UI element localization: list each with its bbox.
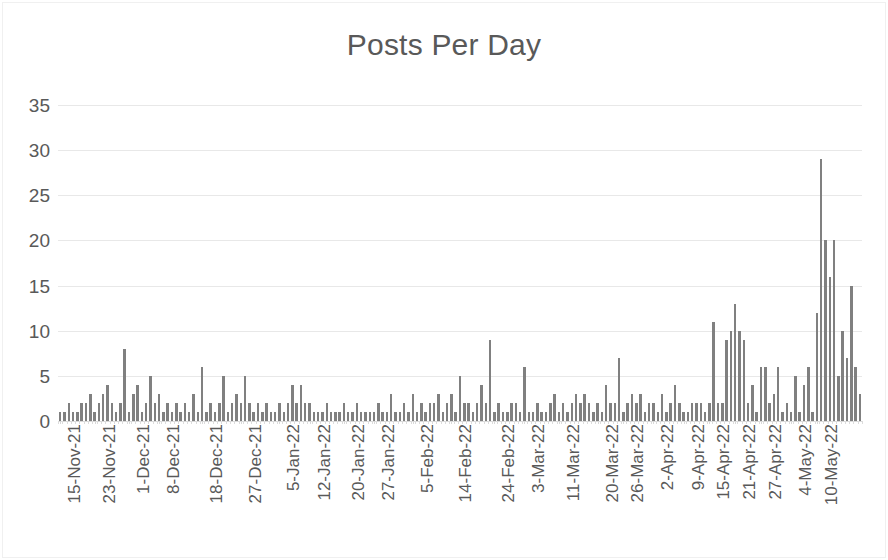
x-axis-minor-tick-mark: [183, 421, 184, 424]
x-axis-tick-mark: [202, 421, 203, 424]
x-axis-minor-tick-mark: [574, 421, 575, 424]
bar: [334, 412, 336, 421]
bar: [240, 403, 242, 421]
bar: [369, 412, 371, 421]
x-axis-minor-tick-mark: [191, 421, 192, 424]
x-axis-minor-tick-mark: [651, 421, 652, 424]
bar: [648, 403, 650, 421]
x-axis-tick-label: 27-Apr-22: [767, 424, 784, 500]
x-axis-minor-tick-mark: [226, 421, 227, 424]
x-axis-tick-mark: [95, 421, 96, 424]
bar: [192, 394, 194, 421]
bar: [222, 376, 224, 421]
x-axis-minor-tick-mark: [204, 421, 205, 424]
bar: [510, 403, 512, 421]
x-axis-minor-tick-mark: [277, 421, 278, 424]
bar: [777, 367, 779, 421]
bar: [596, 403, 598, 421]
bar: [674, 385, 676, 421]
y-axis-tick-label: 20: [6, 231, 50, 250]
x-axis-minor-tick-mark: [200, 421, 201, 424]
x-axis-minor-tick-mark: [329, 421, 330, 424]
x-axis-minor-tick-mark: [742, 421, 743, 424]
bar: [386, 412, 388, 421]
bar: [764, 367, 766, 421]
x-axis-minor-tick-mark: [699, 421, 700, 424]
x-axis-minor-tick-mark: [415, 421, 416, 424]
bar: [188, 412, 190, 421]
bar: [235, 394, 237, 421]
x-axis-minor-tick-mark: [578, 421, 579, 424]
x-axis-minor-tick-mark: [411, 421, 412, 424]
x-axis-minor-tick-mark: [333, 421, 334, 424]
bar: [184, 403, 186, 421]
x-axis-minor-tick-mark: [565, 421, 566, 424]
chart-container: Posts Per Day 35302520151050 15-Nov-2123…: [0, 0, 888, 560]
bar: [687, 412, 689, 421]
bar: [519, 412, 521, 421]
x-axis-minor-tick-mark: [393, 421, 394, 424]
bar: [846, 358, 848, 421]
x-axis-minor-tick-mark: [600, 421, 601, 424]
x-axis-tick-mark: [279, 421, 280, 424]
x-axis-minor-tick-mark: [712, 421, 713, 424]
x-axis-minor-tick-mark: [462, 421, 463, 424]
bar: [287, 403, 289, 421]
x-axis-minor-tick-mark: [264, 421, 265, 424]
x-axis-minor-tick-mark: [376, 421, 377, 424]
x-axis-tick-mark: [653, 421, 654, 424]
x-axis-minor-tick-mark: [634, 421, 635, 424]
x-axis-minor-tick-mark: [724, 421, 725, 424]
bar: [549, 403, 551, 421]
bar: [553, 394, 555, 421]
bar: [330, 412, 332, 421]
x-axis-minor-tick-mark: [836, 421, 837, 424]
bar: [98, 403, 100, 421]
x-axis-minor-tick-mark: [92, 421, 93, 424]
bar: [566, 412, 568, 421]
bar: [338, 412, 340, 421]
x-axis-minor-tick-mark: [101, 421, 102, 424]
bar: [403, 403, 405, 421]
bar: [209, 403, 211, 421]
x-axis-minor-tick-mark: [492, 421, 493, 424]
bar: [123, 349, 125, 421]
bar: [321, 412, 323, 421]
x-axis-minor-tick-mark: [673, 421, 674, 424]
bar: [712, 322, 714, 421]
bar: [605, 385, 607, 421]
x-axis-minor-tick-mark: [208, 421, 209, 424]
x-axis-tick-mark: [761, 421, 762, 424]
bar: [450, 394, 452, 421]
bar: [661, 394, 663, 421]
x-axis-minor-tick-mark: [484, 421, 485, 424]
bar: [59, 412, 61, 421]
x-axis-minor-tick-mark: [243, 421, 244, 424]
bar: [859, 394, 861, 421]
x-axis-tick-mark: [60, 421, 61, 424]
x-axis-minor-tick-mark: [88, 421, 89, 424]
x-axis-minor-tick-mark: [703, 421, 704, 424]
x-axis-minor-tick-mark: [561, 421, 562, 424]
x-axis-minor-tick-mark: [170, 421, 171, 424]
bar: [760, 367, 762, 421]
bar: [803, 385, 805, 421]
bar: [373, 412, 375, 421]
bar: [558, 412, 560, 421]
x-axis-minor-tick-mark: [810, 421, 811, 424]
bar: [132, 394, 134, 421]
bar: [644, 412, 646, 421]
x-axis-minor-tick-mark: [368, 421, 369, 424]
x-axis-minor-tick-mark: [815, 421, 816, 424]
bar: [635, 403, 637, 421]
bar: [179, 412, 181, 421]
x-axis-tick-mark: [374, 421, 375, 424]
x-axis-minor-tick-mark: [677, 421, 678, 424]
x-axis-tick-label: 18-Dec-21: [208, 424, 225, 503]
bar: [515, 403, 517, 421]
x-axis-minor-tick-mark: [626, 421, 627, 424]
bar: [592, 412, 594, 421]
x-axis-tick-label: 11-Mar-22: [565, 424, 582, 501]
y-axis-labels: 35302520151050: [0, 0, 50, 560]
x-axis-minor-tick-mark: [389, 421, 390, 424]
